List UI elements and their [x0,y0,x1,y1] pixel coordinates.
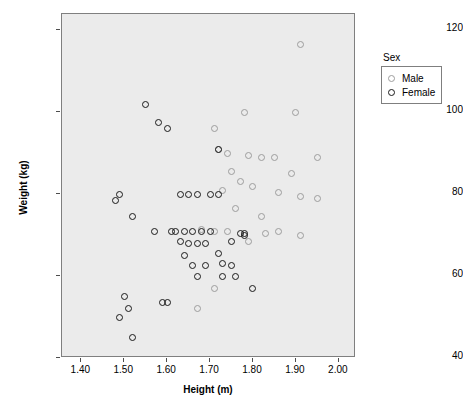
legend-marker-icon [386,73,397,84]
data-point-male [232,205,239,212]
legend-item-label: Female [402,87,435,98]
data-point-female [215,146,222,153]
data-point-female [155,119,162,126]
data-point-male [228,168,235,175]
x-tick-mark [166,358,167,362]
data-point-male [297,232,304,239]
x-tick-label: 2.00 [318,364,358,375]
data-point-male [249,183,256,190]
data-point-male [211,285,218,292]
data-point-male [262,230,269,237]
data-point-female [207,191,214,198]
y-axis-title: Weight (kg) [18,148,29,228]
data-point-male [241,109,248,116]
x-tick-mark [123,358,124,362]
data-point-female [207,228,214,235]
data-point-female [177,238,184,245]
data-point-female [189,228,196,235]
legend-item-female[interactable]: Female [386,85,435,99]
scatter-plot-figure: Weight (kg) 406080100120 1.401.501.601.7… [0,0,463,408]
data-point-male [258,213,265,220]
data-point-female [228,262,235,269]
legend: Sex MaleFemale [381,52,459,104]
data-point-female [142,101,149,108]
data-point-male [288,170,295,177]
data-point-female [116,314,123,321]
data-point-male [297,41,304,48]
data-point-female [194,273,201,280]
legend-box: MaleFemale [381,66,442,104]
y-tick-mark [56,275,60,276]
data-point-female [194,240,201,247]
data-point-female [241,232,248,239]
x-tick-label: 1.90 [275,364,315,375]
data-point-female [219,260,226,267]
data-point-male [258,154,265,161]
data-point-female [228,238,235,245]
y-tick-mark [56,357,60,358]
x-tick-label: 1.80 [232,364,272,375]
data-point-female [151,228,158,235]
y-tick-label: 100 [429,104,463,115]
x-tick-label: 1.60 [146,364,186,375]
data-point-female [215,250,222,257]
y-tick-mark [56,29,60,30]
data-point-male [237,178,244,185]
data-point-male [245,238,252,245]
data-point-male [292,109,299,116]
data-point-male [194,305,201,312]
x-axis-title: Height (m) [61,384,355,395]
plot-area [61,13,355,357]
data-point-male [224,228,231,235]
data-point-female [177,191,184,198]
y-tick-label: 80 [429,186,463,197]
data-point-female [121,293,128,300]
data-point-female [198,228,205,235]
data-point-female [219,273,226,280]
data-point-female [129,213,136,220]
data-point-female [129,334,136,341]
data-point-female [112,197,119,204]
data-point-male [314,154,321,161]
x-tick-mark [338,358,339,362]
y-tick-label: 120 [429,22,463,33]
legend-marker-icon [386,87,397,98]
x-tick-label: 1.40 [60,364,100,375]
x-tick-label: 1.50 [103,364,143,375]
x-tick-label: 1.70 [189,364,229,375]
data-point-male [297,193,304,200]
data-point-female [189,262,196,269]
data-point-female [172,228,179,235]
legend-item-male[interactable]: Male [386,71,435,85]
data-point-female [181,252,188,259]
data-point-female [181,228,188,235]
data-point-male [245,152,252,159]
y-tick-label: 60 [429,268,463,279]
data-point-male [275,189,282,196]
y-tick-label: 40 [429,350,463,361]
data-point-female [232,273,239,280]
x-tick-mark [252,358,253,362]
x-tick-mark [295,358,296,362]
data-point-male [275,228,282,235]
data-point-male [211,125,218,132]
data-point-female [194,191,201,198]
data-point-female [185,240,192,247]
legend-title: Sex [381,52,459,63]
data-point-female [249,285,256,292]
data-point-female [202,240,209,247]
legend-item-label: Male [402,73,424,84]
data-point-male [314,195,321,202]
data-point-female [202,262,209,269]
data-point-female [215,191,222,198]
data-point-female [164,299,171,306]
y-tick-mark [56,193,60,194]
data-point-female [125,305,132,312]
y-tick-mark [56,111,60,112]
data-point-female [164,125,171,132]
data-point-female [185,191,192,198]
data-point-male [224,150,231,157]
x-tick-mark [80,358,81,362]
x-tick-mark [209,358,210,362]
data-point-male [271,154,278,161]
